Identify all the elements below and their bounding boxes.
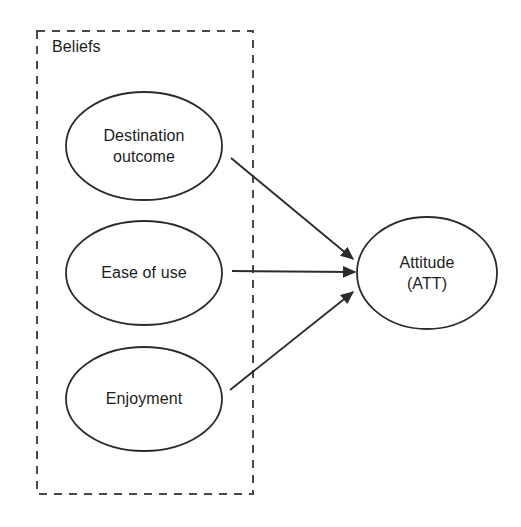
node-attitude-shape[interactable] bbox=[357, 217, 497, 329]
diagram-graphics bbox=[0, 0, 521, 527]
node-ease-of-use-shape[interactable] bbox=[66, 221, 222, 325]
node-enjoyment-shape[interactable] bbox=[66, 347, 222, 451]
node-destination-outcome-shape[interactable] bbox=[66, 92, 222, 200]
beliefs-group-title: Beliefs bbox=[52, 38, 101, 56]
edge-enjoyment-to-attitude bbox=[230, 292, 353, 390]
diagram-canvas: Beliefs Destination outcome Ease of use … bbox=[0, 0, 521, 527]
edge-ease-of-use-to-attitude bbox=[232, 271, 355, 272]
edge-destination-outcome-to-attitude bbox=[231, 158, 353, 259]
